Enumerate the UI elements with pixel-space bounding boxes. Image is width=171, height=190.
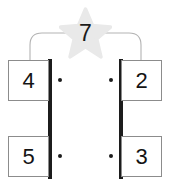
dot-top-right	[109, 78, 113, 82]
card-bottom-right[interactable]: 3	[121, 136, 162, 177]
card-top-right[interactable]: 2	[121, 60, 162, 101]
star-value: 7	[59, 7, 112, 60]
dot-bottom-right	[109, 154, 113, 158]
dot-bottom-left	[58, 154, 62, 158]
card-top-left[interactable]: 4	[8, 60, 49, 101]
card-bottom-left[interactable]: 5	[8, 136, 49, 177]
star-badge: 7	[59, 7, 112, 60]
puzzle-canvas: 7 4 2 5 3	[0, 0, 171, 190]
dot-top-left	[58, 78, 62, 82]
